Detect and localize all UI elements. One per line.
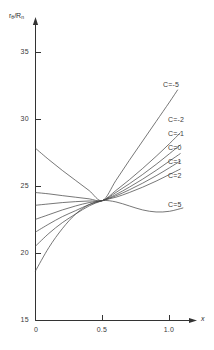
curves-group [36,90,183,271]
curve-label-c-2: C=2 [168,172,182,180]
curve-c-1 [36,161,181,232]
x-tick-marks [36,315,170,321]
curve-c-5 [36,90,178,201]
chart-figure: rθ/Rn 35 30 25 20 15 0 0.5 1.0 x C=-5C=-… [0,0,214,350]
curve-label-c-1: C=1 [168,158,182,166]
x-tick-label-0-5: 0.5 [92,326,112,334]
curve-label-c-0: C=0 [168,144,182,152]
y-axis-title-sub-n: n [21,14,24,20]
curve-label-c-5: C=-5 [163,81,179,89]
y-tick-label-15: 15 [11,316,29,324]
curve-c-2 [36,169,181,246]
curve-c-0 [36,154,181,220]
curve-label-c-1: C=-1 [168,130,184,138]
y-axis-arrow-icon [33,17,38,25]
x-axis-title: x [201,315,205,323]
y-axis-title: rθ/Rn [9,12,24,21]
x-axis-arrow-icon [189,318,197,323]
y-tick-label-30: 30 [11,115,29,123]
y-tick-label-20: 20 [11,249,29,257]
curve-c-5 [36,200,183,270]
plot-canvas [0,0,214,350]
y-tick-marks [36,53,42,321]
curve-label-c-5: C=5 [168,201,182,209]
axes-group [33,17,197,323]
y-tick-label-35: 35 [11,48,29,56]
y-tick-label-25: 25 [11,182,29,190]
x-tick-label-1-0: 1.0 [159,326,179,334]
x-tick-label-0: 0 [26,326,46,334]
curve-c-2 [36,133,181,201]
curve-label-c-2: C=-2 [168,116,184,124]
